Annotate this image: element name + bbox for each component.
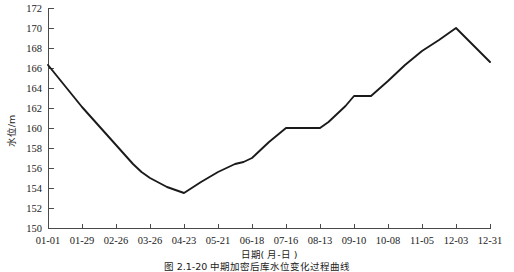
y-axis-ticks [49,9,54,229]
water-level-line-chart: 150152154156158160162164166168170172 01-… [0,0,514,272]
x-tick-label: 10-08 [376,235,401,246]
y-tick-label: 156 [26,163,42,174]
x-axis-title: 日期( 月-日 ) [241,249,298,260]
y-axis-tick-labels: 150152154156158160162164166168170172 [26,3,43,234]
x-tick-label: 03-26 [138,235,163,246]
x-axis-tick-labels: 01-0101-2902-2603-2604-2305-2106-1807-16… [36,235,503,246]
y-tick-label: 166 [26,63,42,74]
x-tick-label: 06-18 [240,235,265,246]
x-axis-ticks [83,224,491,229]
plot-frame [49,8,491,229]
x-tick-label: 11-05 [410,235,434,246]
y-tick-label: 172 [26,3,42,14]
y-tick-label: 162 [26,103,42,114]
figure-caption: 图 2.1-20 中期加密后库水位变化过程曲线 [164,261,351,272]
y-tick-label: 168 [26,43,42,54]
y-tick-label: 154 [26,183,43,194]
x-tick-label: 01-01 [36,235,61,246]
x-tick-label: 12-03 [444,235,469,246]
x-tick-label: 09-10 [342,235,367,246]
y-axis-title: 水位/m [6,115,17,147]
figure-container: 150152154156158160162164166168170172 01-… [0,0,514,272]
x-tick-label: 02-26 [104,235,129,246]
y-tick-label: 158 [26,143,42,154]
x-tick-label: 01-29 [70,235,95,246]
x-tick-label: 08-13 [308,235,333,246]
y-tick-label: 164 [26,83,43,94]
y-tick-label: 170 [26,23,42,34]
x-tick-label: 12-31 [478,235,503,246]
axis-spines [49,8,491,229]
x-tick-label: 05-21 [206,235,231,246]
y-tick-label: 152 [26,203,42,214]
x-tick-label: 04-23 [172,235,197,246]
y-tick-label: 150 [26,223,42,234]
x-tick-label: 07-16 [274,235,299,246]
series-line-water-level [48,28,490,193]
y-tick-label: 160 [26,123,42,134]
